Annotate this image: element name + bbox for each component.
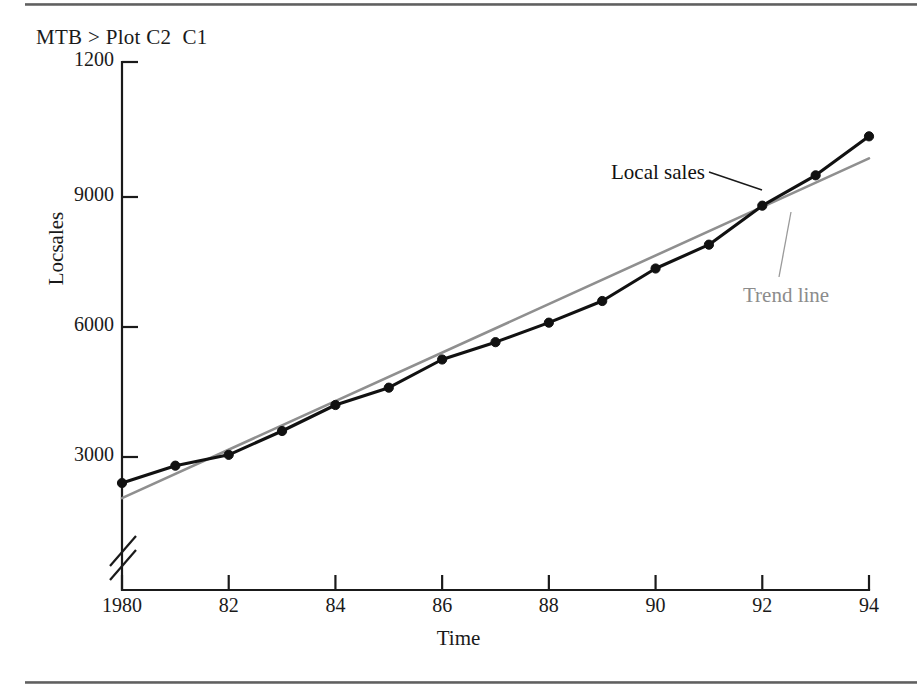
data-point-marker [438,355,447,364]
data-point-marker [117,478,126,487]
data-point-marker [171,461,180,470]
data-point-marker [864,132,873,141]
x-axis-title: Time [0,626,917,651]
annotation-trend-line: Trend line [743,283,829,308]
ticks-group [122,62,869,590]
plot-canvas [0,0,917,691]
y-axis-tick-label: 1200 [20,48,114,71]
y-axis-tick-label: 3000 [20,443,114,466]
annotation-local-sales: Local sales [611,160,705,185]
data-point-marker [224,450,233,459]
y-axis-title: Locsales [44,179,69,319]
data-point-marker [384,383,393,392]
data-point-marker [598,296,607,305]
x-axis-tick-label: 90 [611,594,701,617]
data-point-marker [331,400,340,409]
x-axis-tick-label: 84 [290,594,380,617]
x-axis-tick-label: 92 [717,594,807,617]
x-axis-tick-label: 82 [184,594,274,617]
x-axis-tick-label: 88 [504,594,594,617]
x-axis-tick-label: 1980 [77,594,167,617]
data-point-marker [491,338,500,347]
x-axis-tick-label: 94 [824,594,914,617]
figure-container: MTB > Plot C2 C1 1200900060003000 198082… [0,0,917,691]
data-point-marker [704,240,713,249]
data-point-marker [544,318,553,327]
data-point-marker [651,264,660,273]
data-point-markers [117,132,873,488]
axes-group [122,62,869,590]
data-point-marker [277,426,286,435]
data-point-marker [811,171,820,180]
data-point-marker [758,201,767,210]
x-axis-tick-label: 86 [397,594,487,617]
